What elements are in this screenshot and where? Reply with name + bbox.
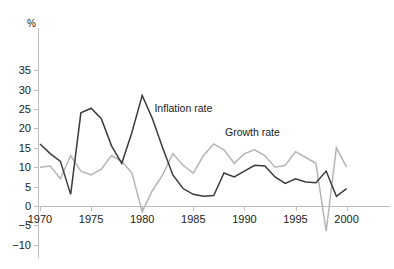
- y-tick-label: 15: [19, 142, 31, 154]
- series-label-inflation-rate: Inflation rate: [154, 102, 212, 114]
- x-tick-label: 2000: [334, 213, 358, 225]
- x-tick-label: 1985: [181, 213, 205, 225]
- y-tick-label: 25: [19, 103, 31, 115]
- series-label-growth-rate: Growth rate: [225, 126, 280, 138]
- x-tick-label: 1975: [79, 213, 103, 225]
- x-tick-label: 1995: [283, 213, 307, 225]
- y-axis-unit-label: %: [27, 18, 36, 29]
- chart-container: 35302520151050−5−10197019751980198519901…: [0, 0, 394, 269]
- y-tick-label: 35: [19, 64, 31, 76]
- y-tick-label: −10: [12, 239, 31, 251]
- y-tick-label: 30: [19, 84, 31, 96]
- x-tick-label: 1970: [28, 213, 52, 225]
- line-chart: 35302520151050−5−10197019751980198519901…: [0, 0, 394, 269]
- y-tick-label: 10: [19, 161, 31, 173]
- y-tick-label: 0: [25, 200, 31, 212]
- x-tick-label: 1990: [232, 213, 256, 225]
- series-annotation-layer: Inflation rateGrowth rate: [154, 102, 280, 138]
- y-tick-label: 20: [19, 122, 31, 134]
- y-tick-label: 5: [25, 181, 31, 193]
- x-tick-label: 1980: [130, 213, 154, 225]
